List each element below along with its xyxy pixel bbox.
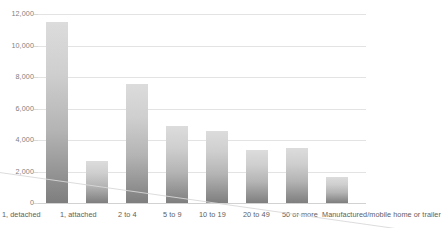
- bar-manufactured[interactable]: [326, 177, 348, 203]
- bar-50-or-more[interactable]: [286, 148, 308, 203]
- x-label-20-to-49: 20 to 49: [243, 210, 270, 219]
- x-label-1-detached: 1, detached: [2, 210, 41, 219]
- bar-5-to-9[interactable]: [166, 126, 188, 203]
- x-label-1-attached: 1, attached: [60, 210, 97, 219]
- bar-10-to-19[interactable]: [206, 131, 228, 203]
- x-label-50-or-more: 50 or more: [282, 210, 318, 219]
- x-label-5-to-9: 5 to 9: [163, 210, 182, 219]
- bar-1-attached[interactable]: [86, 161, 108, 203]
- bar-20-to-49[interactable]: [246, 150, 268, 203]
- x-axis-labels: 1, detached 1, attached 2 to 4 5 to 9 10…: [0, 210, 416, 228]
- x-label-2-to-4: 2 to 4: [118, 210, 137, 219]
- x-label-10-to-19: 10 to 19: [199, 210, 226, 219]
- bar-2-to-4[interactable]: [126, 84, 148, 203]
- bar-1-detached[interactable]: [46, 22, 68, 203]
- x-label-manufactured: Manufactured/mobile home or trailer: [322, 210, 441, 219]
